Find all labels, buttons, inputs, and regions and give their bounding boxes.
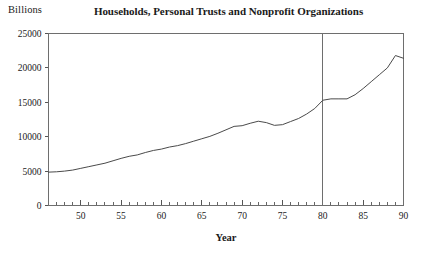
x-axis-tick-label: 75 [278, 211, 288, 221]
x-axis-tick-label: 85 [358, 211, 368, 221]
x-axis-tick-label: 70 [237, 211, 247, 221]
x-axis-tick-label: 60 [157, 211, 167, 221]
data-series-line [49, 56, 404, 173]
y-axis-tick-label: 5000 [23, 167, 42, 177]
y-axis-tick-label: 0 [37, 201, 42, 211]
x-axis-tick-label: 65 [197, 211, 207, 221]
chart-plot-area: 0500010000150002000025000 50556065707580… [0, 0, 425, 256]
chart-figure: Billions Households, Personal Trusts and… [0, 0, 425, 256]
x-axis-tick-group: 505560657075808590 [76, 200, 408, 221]
y-axis-tick-label: 10000 [18, 132, 42, 142]
x-axis-tick-label: 55 [116, 211, 126, 221]
y-axis-tick-label: 20000 [18, 63, 42, 73]
y-axis-tick-label: 25000 [18, 29, 42, 39]
x-axis-tick-label: 50 [76, 211, 86, 221]
plot-frame [49, 34, 404, 206]
y-axis-tick-group: 0500010000150002000025000 [18, 29, 49, 211]
x-axis-tick-label: 80 [318, 211, 328, 221]
data-series-group [49, 56, 404, 173]
x-axis-title: Year [216, 232, 237, 243]
x-axis-minor-tick-group [49, 202, 396, 206]
y-axis-tick-label: 15000 [18, 98, 42, 108]
x-axis-tick-label: 90 [399, 211, 409, 221]
plot-border [49, 34, 404, 206]
